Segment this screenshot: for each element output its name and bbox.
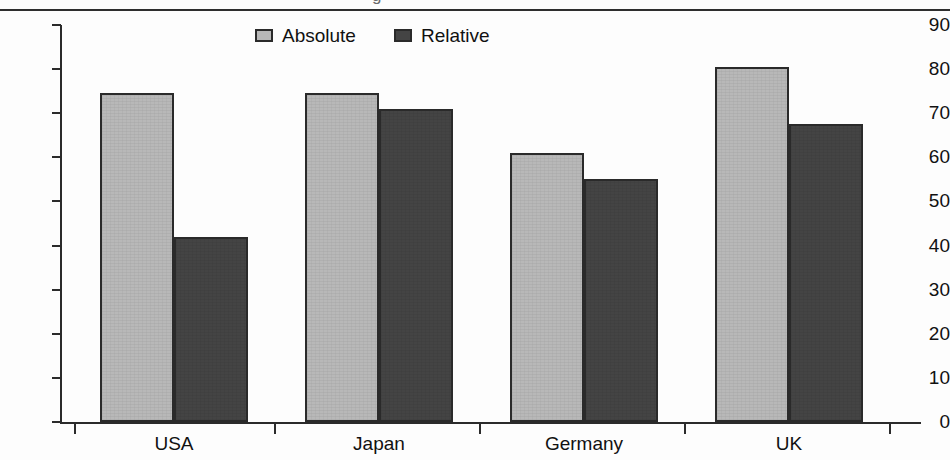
x-category-label-germany: Germany bbox=[514, 434, 654, 453]
y-tick-label: 40 bbox=[904, 236, 950, 255]
bar-japan-absolute bbox=[305, 93, 379, 422]
y-tick-mark bbox=[52, 245, 61, 247]
y-tick-label: 0 bbox=[904, 412, 950, 431]
x-tick-mark bbox=[274, 423, 276, 434]
y-tick-label: 70 bbox=[904, 103, 950, 122]
y-tick-mark bbox=[52, 333, 61, 335]
x-category-label-usa: USA bbox=[104, 434, 244, 453]
y-tick-mark bbox=[52, 68, 61, 70]
bar-usa-relative bbox=[174, 237, 248, 422]
y-tick-mark bbox=[52, 289, 61, 291]
y-tick-label: 50 bbox=[904, 191, 950, 210]
bar-usa-absolute bbox=[100, 93, 174, 422]
plot-area: 0102030405060708090 USAJapanGermanyUK bbox=[0, 0, 950, 460]
y-tick-label: 30 bbox=[904, 280, 950, 299]
y-axis-line bbox=[60, 25, 62, 424]
y-tick-mark bbox=[52, 200, 61, 202]
y-tick-label: 80 bbox=[904, 59, 950, 78]
bar-japan-relative bbox=[379, 109, 453, 422]
y-tick-mark bbox=[52, 421, 61, 423]
bar-uk-absolute bbox=[715, 67, 789, 422]
y-tick-label: 90 bbox=[904, 15, 950, 34]
y-tick-label: 60 bbox=[904, 147, 950, 166]
x-tick-mark bbox=[479, 423, 481, 434]
bar-germany-absolute bbox=[510, 153, 584, 422]
x-category-label-uk: UK bbox=[719, 434, 859, 453]
x-axis-line bbox=[60, 422, 921, 424]
x-tick-mark bbox=[684, 423, 686, 434]
bar-uk-relative bbox=[789, 124, 863, 422]
y-tick-mark bbox=[52, 112, 61, 114]
x-category-label-japan: Japan bbox=[309, 434, 449, 453]
y-tick-mark bbox=[52, 156, 61, 158]
x-tick-mark bbox=[74, 423, 76, 434]
x-tick-mark bbox=[889, 423, 891, 434]
y-tick-label: 10 bbox=[904, 368, 950, 387]
chart-page: g Absolute Relative 0102030405060708090 … bbox=[0, 0, 950, 460]
bar-germany-relative bbox=[584, 179, 658, 422]
y-tick-label: 20 bbox=[904, 324, 950, 343]
y-tick-mark bbox=[52, 377, 61, 379]
y-tick-mark bbox=[52, 24, 61, 26]
